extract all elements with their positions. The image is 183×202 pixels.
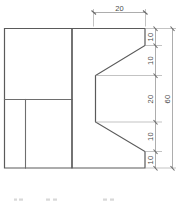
left-view-outline xyxy=(5,29,73,169)
dim-label-segment-4: 10 xyxy=(146,132,155,141)
left-view-rectangle xyxy=(5,29,73,169)
dimension-overall-height: 60 xyxy=(163,27,175,171)
dimension-chain-vertical: 10 10 20 10 10 xyxy=(146,27,158,171)
dim-label-top-width: 20 xyxy=(115,4,124,13)
right-view-outline xyxy=(72,29,145,169)
dim-label-segment-1: 10 xyxy=(146,33,155,42)
artifact-d xyxy=(53,199,57,201)
artifact-b xyxy=(19,199,23,201)
dimension-top-width: 20 xyxy=(92,4,148,27)
artifact-f xyxy=(110,199,114,201)
dim-label-segment-3: 20 xyxy=(146,95,155,104)
dim-label-overall-height: 60 xyxy=(163,95,172,104)
artifact-c xyxy=(46,199,50,201)
engineering-drawing-svg: 20 10 10 20 10 10 xyxy=(0,0,183,202)
dim-label-segment-2: 10 xyxy=(146,56,155,65)
dim-label-segment-5: 10 xyxy=(146,156,155,165)
artifact-e xyxy=(103,199,107,201)
artifact-a xyxy=(14,199,17,201)
technical-drawing-canvas: 20 10 10 20 10 10 xyxy=(0,0,183,202)
bottom-edge-artifacts xyxy=(14,199,114,201)
right-view-notched-profile xyxy=(72,29,145,169)
